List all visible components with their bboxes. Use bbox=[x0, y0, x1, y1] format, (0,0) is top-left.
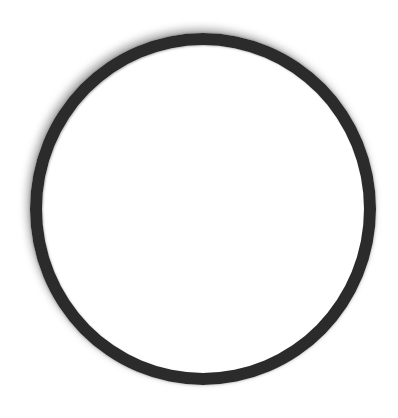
ring-shape bbox=[30, 33, 376, 385]
canvas: Black circular ring on white background bbox=[0, 0, 398, 418]
